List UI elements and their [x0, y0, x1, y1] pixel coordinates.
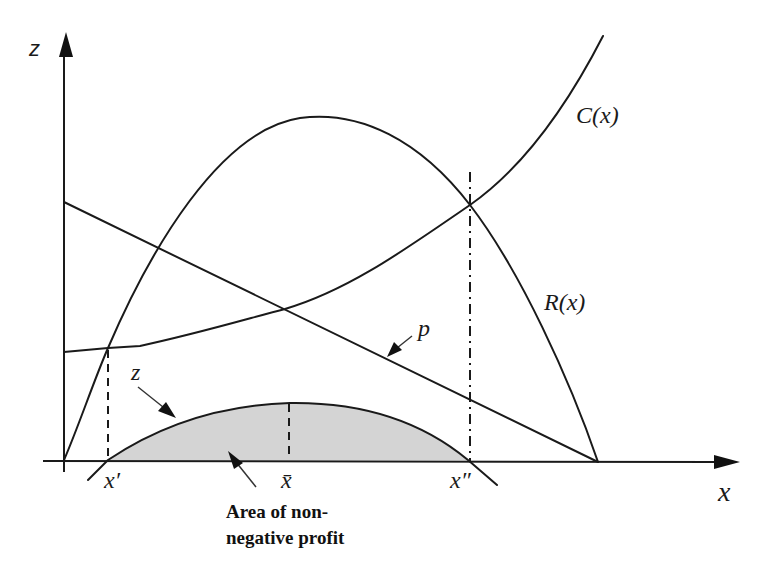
z-axis-label: z	[28, 36, 40, 61]
cost-curve	[64, 36, 603, 352]
x-prime-label: x′	[103, 467, 121, 493]
price-line-label: p	[416, 315, 430, 341]
price-label-pointer	[397, 336, 412, 348]
x-axis-arrow-icon	[714, 455, 740, 469]
x-axis-label: x	[717, 476, 731, 507]
area-caption-line2: negative profit	[226, 527, 345, 548]
area-caption-line1: Area of non-	[226, 501, 328, 522]
profit-diagram: z x C(x) R(x) p z x′ x̄ x″ Area of non- …	[0, 0, 766, 580]
revenue-curve-label: R(x)	[543, 289, 585, 315]
cost-curve-label: C(x)	[576, 102, 619, 128]
area-pointer	[236, 462, 256, 487]
price-label-arrow-icon	[387, 342, 402, 357]
profit-curve-label: z	[130, 359, 141, 385]
x-double-prime-label: x″	[449, 467, 472, 493]
z-axis-arrow-icon	[59, 32, 73, 57]
x-bar-label: x̄	[280, 467, 292, 493]
x-axis	[43, 461, 718, 462]
